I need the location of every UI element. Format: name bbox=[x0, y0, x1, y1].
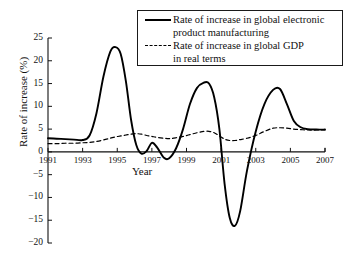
legend-label-electronics: Rate of increase in global electronic pr… bbox=[173, 14, 324, 39]
y-tick-label: 25 bbox=[21, 32, 43, 42]
x-tick-label: 2001 bbox=[207, 155, 235, 165]
x-tick-label: 2003 bbox=[242, 155, 270, 165]
y-tick-label: −15 bbox=[21, 214, 43, 224]
y-tick-label: 10 bbox=[21, 100, 43, 110]
x-tick-label: 2007 bbox=[311, 155, 339, 165]
legend-key-dashed-line-icon bbox=[143, 40, 173, 52]
y-tick-label: −20 bbox=[21, 237, 43, 247]
x-tick-label: 2005 bbox=[276, 155, 304, 165]
chart-series-layer bbox=[48, 47, 325, 226]
x-tick-label: 1997 bbox=[138, 155, 166, 165]
series-line-electronics bbox=[48, 47, 325, 226]
x-tick-label: 1995 bbox=[103, 155, 131, 165]
x-tick-label: 1993 bbox=[69, 155, 97, 165]
x-axis-title: Year bbox=[132, 165, 152, 177]
x-tick-label: 1999 bbox=[173, 155, 201, 165]
y-tick-label: −5 bbox=[21, 169, 43, 179]
legend-item-electronics: Rate of increase in global electronic pr… bbox=[143, 14, 324, 39]
y-tick-label: −10 bbox=[21, 191, 43, 201]
legend-item-gdp: Rate of increase in global GDP in real t… bbox=[143, 40, 304, 65]
legend-key-solid-line-icon bbox=[143, 14, 173, 26]
legend-label-gdp: Rate of increase in global GDP in real t… bbox=[173, 40, 304, 65]
y-tick-label: 20 bbox=[21, 55, 43, 65]
chart-figure: Rate of increase (%) Year 2520151050−5−1… bbox=[0, 0, 352, 258]
x-tick-label: 1991 bbox=[34, 155, 62, 165]
y-tick-label: 5 bbox=[21, 123, 43, 133]
chart-axes bbox=[48, 38, 325, 243]
y-tick-label: 15 bbox=[21, 78, 43, 88]
chart-legend: Rate of increase in global electronic pr… bbox=[137, 10, 343, 66]
